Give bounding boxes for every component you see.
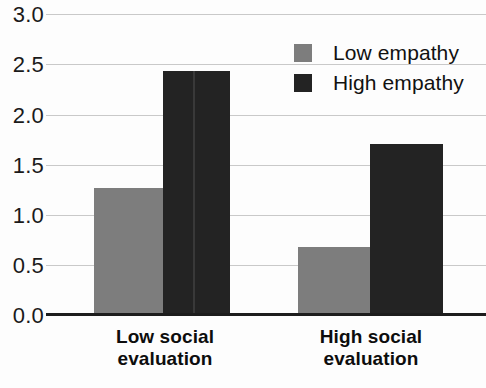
category-label-high-social-line2: evaluation [286, 348, 456, 370]
y-tick-label-0-0: 0.0 [0, 303, 44, 329]
category-label-low-social-evaluation: Low social evaluation [80, 326, 250, 370]
category-label-high-social-evaluation: High social evaluation [286, 326, 456, 370]
bar-chart: 3.0 2.5 2.0 1.5 1.0 0.5 0.0 Low empathy … [0, 0, 486, 388]
bar-low-empathy-high-social [298, 247, 370, 315]
x-axis-line [46, 313, 486, 316]
y-tick-label-0-5: 0.5 [0, 253, 44, 279]
category-label-high-social-line1: High social [286, 326, 456, 348]
bar-high-empathy-low-social [163, 71, 230, 315]
y-tick-label-2-0: 2.0 [0, 103, 44, 129]
legend-label-low-empathy: Low empathy [333, 41, 459, 65]
legend-item-low-empathy: Low empathy [294, 38, 464, 68]
category-label-low-social-line1: Low social [80, 326, 250, 348]
legend-swatch-low-empathy-icon [294, 44, 312, 62]
scan-artifact [193, 71, 195, 315]
legend-item-high-empathy: High empathy [294, 68, 464, 98]
legend-swatch-high-empathy-icon [294, 74, 312, 92]
gridline-3-0 [46, 14, 486, 15]
y-tick-label-3-0: 3.0 [0, 2, 44, 28]
legend: Low empathy High empathy [294, 38, 464, 98]
gridline-2-0 [46, 115, 486, 116]
y-tick-label-1-5: 1.5 [0, 153, 44, 179]
category-label-low-social-line2: evaluation [80, 348, 250, 370]
y-tick-label-2-5: 2.5 [0, 52, 44, 78]
bar-high-empathy-high-social [370, 144, 443, 315]
bar-low-empathy-low-social [94, 188, 163, 315]
legend-label-high-empathy: High empathy [333, 71, 464, 95]
y-tick-label-1-0: 1.0 [0, 203, 44, 229]
